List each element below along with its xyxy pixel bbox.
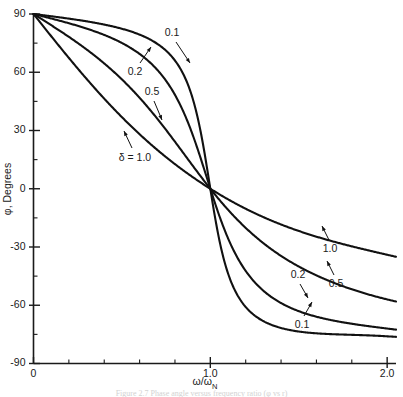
annotation-arrowhead	[147, 47, 151, 52]
curve-delta-0-5	[34, 14, 397, 302]
curve-label-upper-2: 0.5	[145, 85, 160, 97]
curve-label-upper-1: 0.2	[128, 65, 143, 77]
y-tick-group	[29, 14, 40, 364]
y-tick-label: 90	[14, 7, 26, 19]
curve-label-lower-0: 1.0	[323, 242, 338, 254]
curve-label-upper-0: 0.1	[165, 26, 180, 38]
annotation-arrowhead	[304, 293, 308, 298]
annotation-arrowhead	[124, 131, 128, 136]
annotation-arrowhead	[308, 302, 312, 307]
y-tick-label: -60	[10, 298, 25, 310]
x-tick-label: 0	[31, 367, 37, 379]
annotation-arrowhead	[327, 261, 331, 266]
x-tick-label: 2.0	[380, 367, 395, 379]
y-tick-label: 60	[14, 65, 26, 77]
x-tick-label-group: 01.02.0	[31, 367, 395, 379]
y-tick-label: 30	[14, 123, 26, 135]
curve-label-lower-2: 0.2	[291, 268, 306, 280]
curve-label-lower-1: 0.5	[329, 277, 344, 289]
curve-label-lower-3: 0.1	[295, 318, 310, 330]
y-tick-label: -30	[10, 240, 25, 252]
x-axis-title-numerator: ω	[193, 375, 201, 387]
y-tick-label: -90	[10, 356, 25, 368]
y-tick-label: 0	[20, 182, 26, 194]
annotation-arrowhead	[322, 226, 326, 231]
x-axis-title-denominator: ω	[204, 375, 212, 387]
figure-caption: Figure 2.7 Phase angle versus frequency …	[0, 389, 403, 397]
axis-group	[34, 14, 397, 364]
annotation-arrowhead	[186, 58, 190, 63]
curve-label-upper-3: δ = 1.0	[119, 151, 152, 163]
y-axis-title: φ, Degrees	[1, 163, 13, 215]
